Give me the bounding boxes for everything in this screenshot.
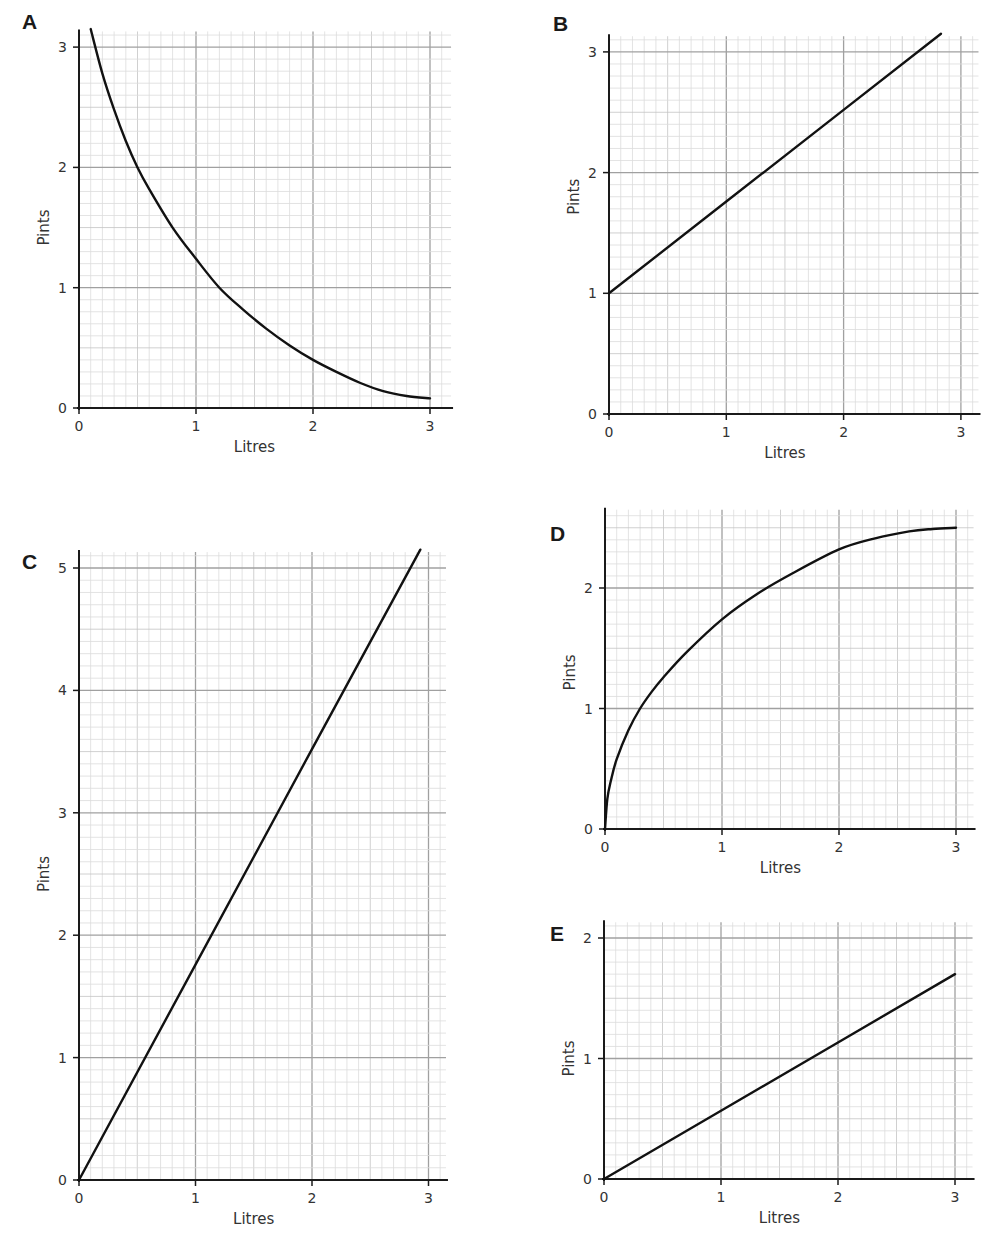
x-tick-label: 2 (834, 1189, 843, 1205)
y-tick-label: 0 (583, 1171, 592, 1187)
x-tick-label: 3 (951, 1189, 960, 1205)
x-axis-title: Litres (759, 1209, 800, 1227)
y-tick-label: 1 (583, 1051, 592, 1067)
x-tick-label: 0 (600, 1189, 609, 1205)
axes: 0123012LitresPints (560, 920, 975, 1227)
y-axis-title: Pints (560, 1040, 578, 1076)
y-tick-label: 2 (583, 930, 592, 946)
x-tick-label: 1 (717, 1189, 726, 1205)
grid (604, 922, 973, 1179)
